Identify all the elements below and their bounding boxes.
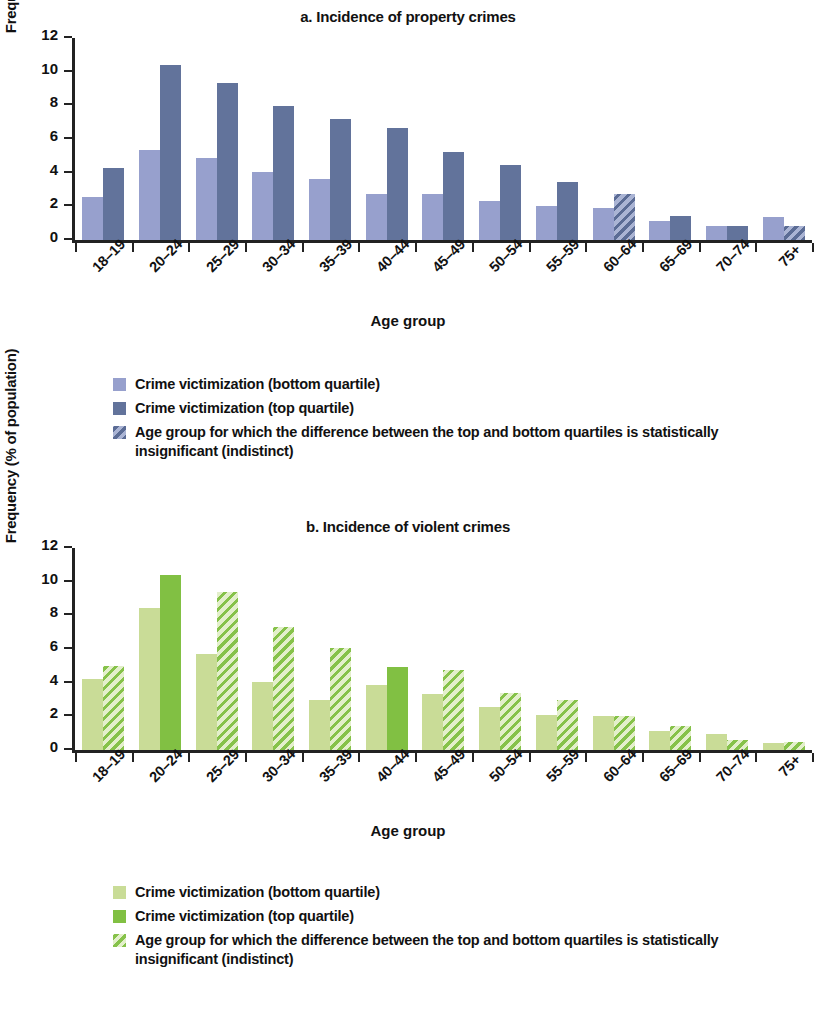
x-tick-label-cell: 25–29 [188,246,245,308]
panel-a-y-axis-title: Frequency (% of population) [0,0,24,56]
panel-b-plot-area: Frequency (% of population) 024681012 18… [0,540,816,780]
legend-swatch-icon [113,378,126,391]
y-axis-tick-label: 12 [41,26,58,43]
legend-item: Crime victimization (bottom quartile) [113,883,813,902]
x-tick-label: 75+ [775,242,803,270]
legend-item: Crime victimization (top quartile) [113,399,813,418]
legend-label: Crime victimization (top quartile) [135,907,354,926]
bar-bottom-quartile [479,707,500,750]
bar-top-quartile [784,742,805,750]
bar-top-quartile [217,592,238,750]
y-axis-tick: 12 [64,546,72,548]
x-axis-tick [812,243,814,252]
bar-top-quartile [273,627,294,750]
legend-item: Age group for which the difference betwe… [113,423,813,461]
legend-label: Age group for which the difference betwe… [135,423,775,461]
bar-group [302,38,359,240]
y-axis-tick: 2 [64,714,72,716]
legend-swatch-icon [113,886,126,899]
x-tick-label-cell: 40–44 [358,756,415,818]
legend-item: Crime victimization (bottom quartile) [113,375,813,394]
panel-b-y-axis-title: Frequency (% of population) [0,326,24,566]
bar-group [585,548,642,750]
bar-bottom-quartile [422,694,443,750]
y-axis-tick-label: 4 [50,671,58,688]
x-tick-label-cell: 18–19 [75,246,132,308]
x-axis-line [72,750,812,753]
bar-group [472,38,529,240]
bar-group [699,38,756,240]
bar-top-quartile [784,226,805,240]
y-axis-tick: 4 [64,171,72,173]
bar-group [642,38,699,240]
y-axis-tick: 10 [64,70,72,72]
bar-bottom-quartile [82,197,103,240]
x-tick-label-cell: 20–24 [132,756,189,818]
bar-bottom-quartile [252,172,273,240]
bar-top-quartile [443,670,464,750]
bar-top-quartile [387,128,408,240]
bar-top-quartile [103,666,124,750]
bar-bottom-quartile [139,150,160,240]
x-tick-label-cell: 50–54 [472,756,529,818]
legend-swatch-hatched-icon [113,934,126,947]
bar-group [755,548,812,750]
x-tick-label-cell: 75+ [755,756,812,818]
bar-group [188,38,245,240]
bar-group [75,548,132,750]
x-tick-label-cell: 45–49 [415,756,472,818]
bar-group [75,38,132,240]
bar-top-quartile [670,726,691,750]
panel-b-bar-groups [75,548,812,750]
y-axis-tick-label: 6 [50,127,58,144]
y-axis-tick-label: 10 [41,60,58,77]
legend-label: Age group for which the difference betwe… [135,931,775,969]
panel-a-bar-groups [75,38,812,240]
bar-bottom-quartile [366,685,387,750]
bar-bottom-quartile [366,194,387,240]
x-axis-tick [812,753,814,762]
bar-group [415,38,472,240]
x-tick-label-cell: 75+ [755,246,812,308]
bar-top-quartile [443,152,464,240]
bar-top-quartile [330,119,351,240]
bar-bottom-quartile [593,716,614,750]
x-tick-label-cell: 55–59 [529,246,586,308]
y-axis-tick-label: 10 [41,570,58,587]
x-tick-label-cell: 65–69 [642,246,699,308]
bar-bottom-quartile [649,731,670,750]
y-axis-tick-label: 0 [50,228,58,245]
bar-bottom-quartile [763,217,784,240]
x-tick-label-cell: 60–64 [585,246,642,308]
bar-top-quartile [387,667,408,750]
bar-bottom-quartile [309,700,330,750]
panel-b-axes: 024681012 [72,548,812,753]
panel-a-x-axis-title: Age group [0,312,816,329]
x-axis-line [72,240,812,243]
bar-top-quartile [670,216,691,240]
bar-top-quartile [614,194,635,240]
x-tick-label-cell: 35–39 [302,756,359,818]
legend-item: Crime victimization (top quartile) [113,907,813,926]
panel-a-axes: 024681012 [72,38,812,243]
y-axis-tick: 6 [64,647,72,649]
bar-top-quartile [500,165,521,240]
bar-bottom-quartile [309,179,330,240]
x-tick-label-cell: 20–24 [132,246,189,308]
x-tick-label-cell: 70–74 [699,756,756,818]
bar-group [472,548,529,750]
bar-group [529,38,586,240]
bar-bottom-quartile [139,608,160,750]
bar-top-quartile [330,648,351,750]
x-tick-label-cell: 60–64 [585,756,642,818]
legend-swatch-hatched-icon [113,426,126,439]
y-axis-tick-label: 8 [50,603,58,620]
y-axis-tick-label: 2 [50,704,58,721]
bar-bottom-quartile [536,206,557,240]
bar-group [642,548,699,750]
bar-bottom-quartile [196,158,217,240]
bar-group [188,548,245,750]
bar-bottom-quartile [763,743,784,750]
bar-top-quartile [217,83,238,240]
bar-group [132,38,189,240]
